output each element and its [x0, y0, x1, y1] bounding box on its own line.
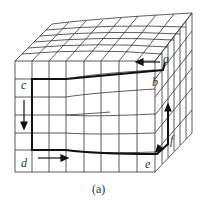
label-b: b	[152, 76, 158, 88]
label-e: e	[145, 158, 150, 170]
label-a: a	[163, 53, 169, 65]
lattice-diagram	[0, 0, 211, 209]
lattice-grid	[15, 13, 192, 172]
burgers-circuit	[32, 62, 168, 154]
label-f: f	[170, 134, 173, 146]
figure-caption: (a)	[92, 182, 105, 197]
label-c: c	[21, 79, 26, 91]
label-d: d	[21, 157, 27, 169]
